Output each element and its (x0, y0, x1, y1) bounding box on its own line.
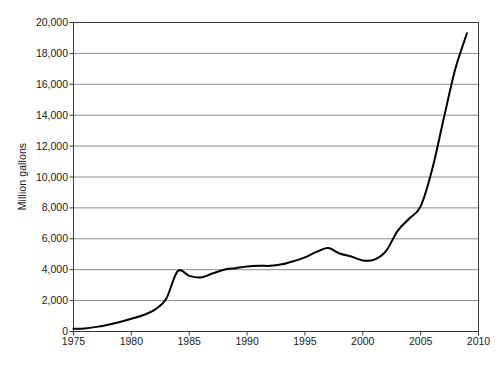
x-axis-tick-label: 2005 (397, 336, 445, 347)
x-axis-tick-label: 2010 (455, 336, 500, 347)
data-series-line (74, 33, 467, 328)
x-axis-tick-label: 1995 (281, 336, 329, 347)
plot-area (0, 0, 500, 368)
x-axis-tick-label: 1975 (50, 336, 98, 347)
x-axis-tick-label: 1985 (165, 336, 213, 347)
y-axis-tick-marks (70, 23, 74, 332)
gridlines (74, 53, 479, 300)
x-axis-tick-labels: 19751980198519901995200020052010 (0, 336, 500, 352)
x-axis-tick-label: 1990 (223, 336, 271, 347)
chart-container: Million gallons 02,0004,0006,0008,00010,… (0, 0, 500, 368)
x-axis-tick-label: 2000 (339, 336, 387, 347)
x-axis-tick-label: 1980 (107, 336, 155, 347)
